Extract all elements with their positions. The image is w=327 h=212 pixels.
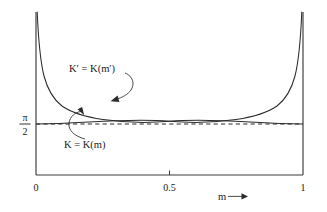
axes-group bbox=[36, 12, 303, 175]
k-prime-leader-group bbox=[111, 73, 134, 102]
pi-denominator: 2 bbox=[23, 126, 28, 137]
xtick-label-1: 1 bbox=[301, 182, 306, 193]
x-axis-label-group: m bbox=[218, 191, 248, 202]
k-prime-annotation-label: K′ = K(m′) bbox=[69, 63, 116, 75]
x-axis-arrowhead bbox=[242, 193, 249, 199]
x-axis-label: m bbox=[218, 191, 226, 202]
pi-numerator: π bbox=[22, 112, 27, 123]
k-prime-leader-line bbox=[116, 73, 133, 100]
xtick-label-0-5: 0.5 bbox=[163, 182, 176, 193]
ytick-label-pi-over-two: π 2 bbox=[20, 112, 31, 137]
xtick-label-0: 0 bbox=[34, 182, 39, 193]
plot-svg: 0 0.5 1 π 2 K′ = K(m′) K = K(m) m bbox=[0, 0, 327, 212]
k-annotation-label: K = K(m) bbox=[64, 139, 106, 151]
elliptic-integral-figure: 0 0.5 1 π 2 K′ = K(m′) K = K(m) m bbox=[0, 0, 327, 212]
k-prime-arrowhead bbox=[111, 95, 120, 102]
